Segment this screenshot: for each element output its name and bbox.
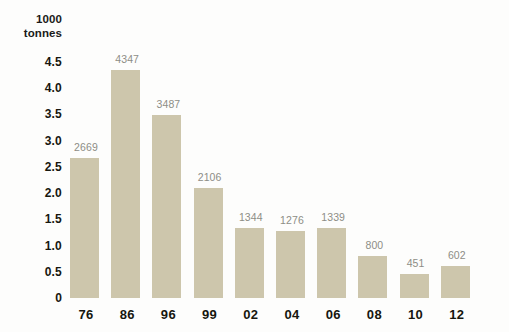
bar xyxy=(400,274,429,298)
bar-group: 127604 xyxy=(276,0,305,332)
bar xyxy=(317,228,346,298)
bar-group: 133906 xyxy=(317,0,346,332)
bar-group: 134402 xyxy=(235,0,264,332)
plot-area: 2669764347863487962106991344021276041339… xyxy=(62,0,509,332)
y-axis-tick-label: 3.0 xyxy=(0,135,62,147)
y-axis-tick-label: 0 xyxy=(0,292,62,304)
x-axis-category-label: 10 xyxy=(393,308,439,322)
y-axis-tick-label: 2.5 xyxy=(0,161,62,173)
bar xyxy=(111,70,140,298)
bar-value-label: 451 xyxy=(394,258,438,269)
y-axis-tick-label: 4.5 xyxy=(0,56,62,68)
bar xyxy=(152,115,181,298)
bar xyxy=(194,188,223,298)
x-axis-category-label: 06 xyxy=(310,308,356,322)
x-axis-category-label: 12 xyxy=(434,308,480,322)
bar-value-label: 602 xyxy=(435,250,479,261)
bar-group: 60212 xyxy=(441,0,470,332)
bar xyxy=(441,266,470,298)
x-axis-category-label: 99 xyxy=(187,308,233,322)
y-axis-tick-label: 1.5 xyxy=(0,213,62,225)
bar xyxy=(70,158,99,298)
x-axis-category-label: 96 xyxy=(145,308,191,322)
bar-value-label: 2669 xyxy=(64,142,108,153)
bar-value-label: 1276 xyxy=(270,215,314,226)
bar-group: 348796 xyxy=(152,0,181,332)
x-axis-category-label: 04 xyxy=(269,308,315,322)
bar-value-label: 3487 xyxy=(146,99,190,110)
bar-group: 45110 xyxy=(400,0,429,332)
bar xyxy=(235,228,264,298)
y-axis-tick-label: 1.0 xyxy=(0,240,62,252)
bar-group: 80008 xyxy=(358,0,387,332)
bar-group: 210699 xyxy=(194,0,223,332)
bar-value-label: 2106 xyxy=(188,172,232,183)
bar-group: 434786 xyxy=(111,0,140,332)
y-axis-tick-label: 3.5 xyxy=(0,108,62,120)
bar-value-label: 4347 xyxy=(105,54,149,65)
bar-group: 266976 xyxy=(70,0,99,332)
bar xyxy=(358,256,387,298)
bar-chart: 1000 tonnes 4.54.03.53.02.52.01.51.00.50… xyxy=(0,0,509,332)
bar-value-label: 1344 xyxy=(229,212,273,223)
y-axis: 4.54.03.53.02.52.01.51.00.50 xyxy=(0,0,62,332)
bar xyxy=(276,231,305,298)
bar-value-label: 1339 xyxy=(311,212,355,223)
x-axis-category-label: 02 xyxy=(228,308,274,322)
x-axis-category-label: 76 xyxy=(63,308,109,322)
x-axis-category-label: 08 xyxy=(351,308,397,322)
x-axis-category-label: 86 xyxy=(104,308,150,322)
y-axis-tick-label: 0.5 xyxy=(0,266,62,278)
bar-value-label: 800 xyxy=(352,240,396,251)
y-axis-tick-label: 4.0 xyxy=(0,82,62,94)
y-axis-tick-label: 2.0 xyxy=(0,187,62,199)
